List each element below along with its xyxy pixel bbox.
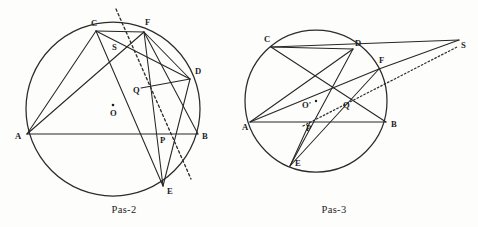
point-label-D-pas2: D xyxy=(195,66,201,76)
segment-F-D xyxy=(144,32,190,79)
point-label-D-pas3: D xyxy=(355,38,361,48)
point-label-E-pas2: E xyxy=(167,186,173,196)
center-dot-pas-3 xyxy=(315,100,317,102)
segment-A-F-2 xyxy=(250,69,379,122)
point-label-C-pas3: C xyxy=(264,34,270,44)
caption-pas-2: Pas-2 xyxy=(111,204,136,215)
point-label-P-pas3: P xyxy=(306,123,311,133)
point-label-P-pas2: P xyxy=(160,135,165,145)
point-label-S-pas2: S xyxy=(112,42,117,52)
panel-pas-3: A B C D E F S P Q O' Pas-3 xyxy=(242,30,466,215)
center-dot-pas-2 xyxy=(112,104,115,107)
point-label-A-pas2: A xyxy=(15,131,22,141)
point-label-F-pas2: F xyxy=(145,17,150,27)
segment-F-S-2 xyxy=(379,40,459,69)
point-label-Q-pas2: Q xyxy=(133,85,140,95)
segment-C-F xyxy=(96,31,144,32)
point-label-Q-pas3: Q xyxy=(343,100,350,110)
segment-C-D xyxy=(96,31,190,79)
dashed-transversal-pas-2 xyxy=(116,9,191,179)
construction-lines-pas-3 xyxy=(250,40,459,166)
point-label-S-pas3: S xyxy=(461,40,466,50)
segment-C-D-2 xyxy=(271,47,353,49)
segment-D-E xyxy=(163,79,190,186)
segment-C-S-2 xyxy=(271,40,459,47)
point-label-B-pas2: B xyxy=(202,131,208,141)
center-label-O-pas2: O xyxy=(110,108,117,118)
panel-pas-2: A B C D E F S P Q O Pas-2 xyxy=(15,9,208,215)
geometry-figure-svg: A B C D E F S P Q O Pas-2 xyxy=(0,0,478,227)
center-label-O-pas3: O' xyxy=(302,100,311,110)
caption-pas-3: Pas-3 xyxy=(321,204,346,215)
point-label-A-pas3: A xyxy=(242,122,249,132)
figure-container: A B C D E F S P Q O Pas-2 xyxy=(0,0,478,227)
point-label-E-pas3: E xyxy=(295,158,301,168)
segment-C-B-2 xyxy=(271,47,386,122)
point-label-B-pas3: B xyxy=(391,119,397,129)
point-label-C-pas2: C xyxy=(91,18,97,28)
point-label-F-pas3: F xyxy=(379,55,384,65)
